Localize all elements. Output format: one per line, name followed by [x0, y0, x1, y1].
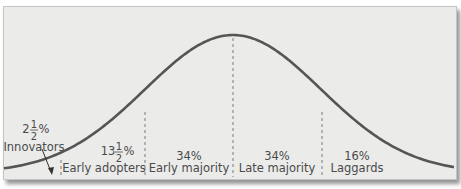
segment-innovators: 2 1 2 % Innovators: [3, 119, 64, 154]
segment-laggards: 16% Laggards: [331, 149, 384, 175]
early-adopters-label: Early adopters: [62, 161, 146, 175]
laggards-label: Laggards: [331, 161, 384, 175]
adoption-curve-diagram: 2 1 2 % Innovators 13 1 2 % Early adopte…: [0, 0, 461, 189]
innovators-fraction-num: 1: [31, 119, 37, 130]
bell-curve: [4, 35, 454, 168]
segment-early-majority: 34% Early majority: [149, 149, 230, 175]
innovators-label: Innovators: [3, 140, 64, 154]
early-majority-label: Early majority: [149, 161, 230, 175]
segment-late-majority: 34% Late majority: [239, 149, 316, 175]
early-adopters-fraction-num: 1: [116, 141, 122, 152]
innovators-percent-sign: %: [39, 122, 50, 136]
early-adopters-whole: 13: [101, 144, 116, 158]
late-majority-label: Late majority: [239, 161, 316, 175]
early-adopters-percent-sign: %: [124, 144, 135, 158]
innovators-whole: 2: [22, 122, 29, 136]
innovators-arrow-head: [48, 167, 54, 175]
